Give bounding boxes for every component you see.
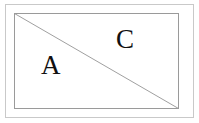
region-label-c: C [116,26,134,53]
region-label-a: A [41,52,61,79]
figure-canvas: A C [0,0,199,123]
diagonal-line [15,14,179,109]
diagram-svg [0,0,199,123]
